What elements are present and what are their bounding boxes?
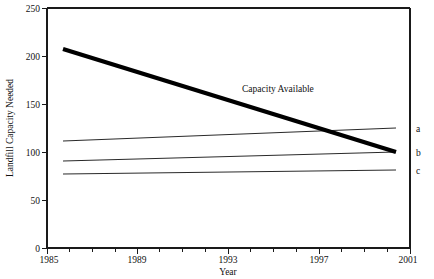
y-tick-label-100: 100	[26, 148, 41, 158]
x-axis-title: Year	[219, 267, 237, 277]
annotation-capacity-available: Capacity Available	[242, 84, 314, 94]
x-tick-label-1993: 1993	[219, 255, 238, 265]
x-tick-label-1989: 1989	[128, 255, 147, 265]
y-axis-title: Landfill Capacity Needed	[5, 79, 15, 177]
x-tick-label-1985: 1985	[40, 255, 59, 265]
chart-background	[0, 0, 434, 279]
y-tick-label-200: 200	[26, 52, 41, 62]
y-tick-label-50: 50	[31, 196, 41, 206]
y-tick-label-250: 250	[26, 4, 41, 14]
chart-container: 250 200 150 100 50 0 Landfill Capacity N…	[0, 0, 434, 279]
series-label-c: c	[416, 166, 420, 176]
y-tick-label-150: 150	[26, 100, 41, 110]
landfill-capacity-line-chart: 250 200 150 100 50 0 Landfill Capacity N…	[0, 0, 434, 279]
x-tick-label-2001: 2001	[399, 255, 418, 265]
series-label-b: b	[416, 148, 421, 158]
x-tick-label-1997: 1997	[310, 255, 329, 265]
y-tick-label-0: 0	[35, 244, 40, 254]
